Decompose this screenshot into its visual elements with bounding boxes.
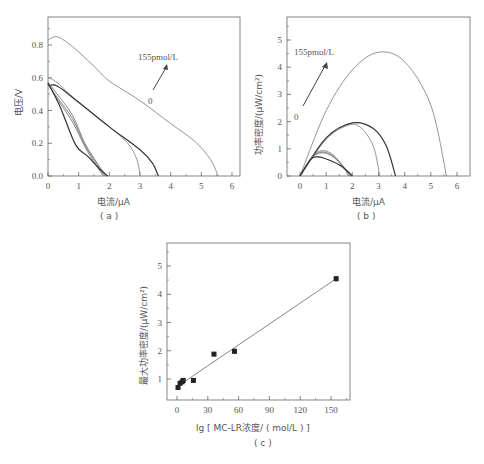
y-tick-label: 2 bbox=[158, 346, 163, 356]
series-line bbox=[48, 37, 218, 176]
panel-c-max-power-concentration-chart: 12345 0306090120150 lg [ MC-LR浓度/ ( mol/… bbox=[138, 243, 350, 448]
data-points-c bbox=[176, 276, 339, 390]
y-tick-label: 0 bbox=[278, 171, 283, 181]
data-point bbox=[191, 378, 196, 383]
arrow-head-a bbox=[163, 64, 168, 70]
plot-frame-c bbox=[167, 243, 350, 400]
x-tick-label: 0 bbox=[175, 405, 180, 415]
data-point bbox=[181, 378, 186, 383]
x-tick-label: 1 bbox=[324, 181, 329, 191]
y-axis-ticks-c: 12345 bbox=[158, 252, 172, 384]
arrow-head-b bbox=[322, 62, 328, 69]
x-tick-label: 30 bbox=[203, 405, 213, 415]
panel-a-voltage-current-chart: 0.00.20.40.60.8 0123456 电流/μA ( a ) 电压/V… bbox=[13, 17, 240, 221]
x-tick-label: 3 bbox=[138, 181, 143, 191]
y-tick-label: 3 bbox=[158, 318, 163, 328]
x-tick-label: 4 bbox=[402, 181, 407, 191]
x-tick-label: 2 bbox=[107, 181, 112, 191]
y-axis-label-c: 最大功率密度/(μW/cm²) bbox=[138, 286, 149, 385]
y-axis-label-a: 电压/V bbox=[13, 88, 24, 116]
x-tick-label: 4 bbox=[168, 181, 173, 191]
regression-line bbox=[182, 279, 336, 384]
y-tick-label: 0.8 bbox=[32, 40, 44, 50]
x-tick-label: 2 bbox=[350, 181, 355, 191]
panel-b-power-current-chart: 012345 0123456 电流/μA ( b ) 功率密度/(μW/cm²)… bbox=[253, 17, 470, 221]
x-tick-label: 5 bbox=[429, 181, 434, 191]
annotation-155-b: 155pmol/L bbox=[294, 47, 334, 57]
arrow-b bbox=[303, 64, 326, 106]
y-tick-label: 1 bbox=[158, 374, 163, 384]
x-tick-label: 3 bbox=[376, 181, 381, 191]
annotation-0-a: 0 bbox=[148, 96, 153, 106]
y-axis-ticks-b: 012345 bbox=[278, 26, 292, 181]
x-tick-label: 0 bbox=[298, 181, 303, 191]
y-tick-label: 4 bbox=[158, 289, 163, 299]
x-tick-label: 6 bbox=[455, 181, 460, 191]
y-tick-label: 0.4 bbox=[32, 106, 44, 116]
x-axis-label-b: 电流/μA bbox=[352, 196, 386, 207]
caption-a: ( a ) bbox=[100, 211, 118, 221]
caption-b: ( b ) bbox=[357, 211, 375, 221]
fit-line-c bbox=[182, 279, 336, 384]
arrow-a bbox=[153, 66, 167, 90]
x-tick-label: 0 bbox=[46, 181, 51, 191]
y-tick-label: 4 bbox=[278, 62, 283, 72]
x-axis-ticks-c: 0306090120150 bbox=[175, 396, 347, 415]
caption-c: ( c ) bbox=[254, 438, 272, 448]
annotation-155-a: 155pmol/L bbox=[138, 52, 178, 62]
y-tick-label: 1 bbox=[278, 144, 283, 154]
x-axis-label-a: 电流/μA bbox=[97, 196, 131, 207]
series-line bbox=[300, 123, 396, 176]
data-point bbox=[211, 352, 216, 357]
x-axis-label-c: lg [ MC-LR浓度/ ( mol/L ) ] bbox=[196, 422, 310, 433]
x-tick-label: 1 bbox=[76, 181, 81, 191]
plot-frame-a bbox=[48, 17, 240, 176]
x-tick-label: 60 bbox=[234, 405, 244, 415]
y-axis-label-b: 功率密度/(μW/cm²) bbox=[253, 74, 264, 155]
x-tick-label: 120 bbox=[293, 405, 307, 415]
x-axis-ticks-b: 0123456 bbox=[298, 172, 460, 191]
x-tick-label: 6 bbox=[230, 181, 235, 191]
plot-frame-b bbox=[287, 17, 470, 176]
series-line bbox=[300, 124, 380, 176]
data-point bbox=[232, 349, 237, 354]
x-tick-label: 90 bbox=[265, 405, 275, 415]
y-tick-label: 0.0 bbox=[32, 171, 44, 181]
y-tick-label: 5 bbox=[278, 35, 283, 45]
annotation-0-b: 0 bbox=[294, 112, 299, 122]
x-tick-label: 150 bbox=[324, 405, 338, 415]
y-tick-label: 0.2 bbox=[32, 138, 43, 148]
y-tick-label: 5 bbox=[158, 261, 163, 271]
x-tick-label: 5 bbox=[199, 181, 204, 191]
figure-canvas: 0.00.20.40.60.8 0123456 电流/μA ( a ) 电压/V… bbox=[0, 0, 484, 464]
data-point bbox=[334, 276, 339, 281]
series-a bbox=[48, 37, 218, 176]
y-tick-label: 2 bbox=[278, 117, 283, 127]
series-line bbox=[48, 85, 158, 176]
y-tick-label: 0.6 bbox=[32, 73, 44, 83]
y-tick-label: 3 bbox=[278, 89, 283, 99]
y-axis-ticks-a: 0.00.20.40.60.8 bbox=[32, 29, 52, 181]
